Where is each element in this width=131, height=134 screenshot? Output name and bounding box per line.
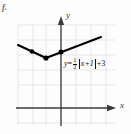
equation-fraction: 1 2 (73, 58, 78, 70)
equation-label: y = 1 2 x+1 + 3 (64, 58, 105, 70)
part-label: f. (2, 3, 7, 12)
abs-bar-open (79, 59, 80, 69)
fraction-denominator: 2 (73, 64, 78, 71)
plot-point-left (30, 49, 35, 54)
equation-abs-inner: x+1 (81, 60, 94, 68)
plot-point-right (59, 50, 64, 55)
absolute-value-graph-figure: f. y x y = 1 2 x+1 + 3 (0, 0, 131, 134)
y-axis (58, 16, 64, 126)
equation-constant: 3 (101, 60, 105, 68)
equation-equals: = (68, 60, 73, 68)
x-axis-label: x (120, 101, 124, 110)
x-axis (16, 105, 116, 112)
y-axis-label: y (66, 11, 70, 20)
abs-bar-close (95, 59, 96, 69)
grid-lines (18, 25, 115, 125)
plot-point-vertex (43, 55, 48, 60)
